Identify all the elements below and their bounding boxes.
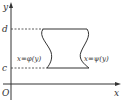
c-label: c (2, 63, 7, 73)
left-curve-phi (42, 29, 52, 68)
d-label: d (2, 24, 8, 34)
y-axis-arrow-icon (9, 2, 13, 8)
right-curve-label: x=ψ(y) (84, 55, 109, 63)
diagram-svg: y x O d c x=φ(y) x=ψ(y) (0, 0, 125, 107)
left-curve-label: x=φ(y) (17, 55, 41, 63)
x-axis-arrow-icon (115, 82, 121, 86)
region-diagram: y x O d c x=φ(y) x=ψ(y) (0, 0, 125, 107)
y-axis-label: y (2, 2, 9, 12)
origin-label: O (2, 88, 10, 98)
x-axis-label: x (114, 88, 119, 98)
